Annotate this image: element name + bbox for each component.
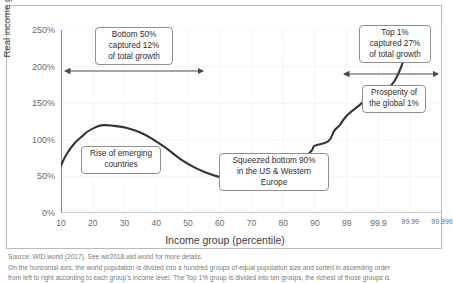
chart-frame: Real income growth per adult (%) 0%50%10… [6, 5, 442, 249]
y-tick-0: 0% [11, 208, 55, 218]
footnote-note-line-1: On the horizontal axis, the world popula… [8, 263, 448, 274]
x-tick-20: 20 [88, 218, 97, 228]
y-tick-250: 250% [11, 25, 55, 35]
x-tick-90: 90 [310, 218, 319, 228]
x-tick-80: 80 [279, 218, 288, 228]
squeezed-bottom-90-callout: Squeezed bottom 90% in the US & Western … [219, 153, 329, 191]
footnote-source: Source: WID.world (2017). See wir2018.wi… [8, 252, 448, 263]
x-tick-30: 30 [120, 218, 129, 228]
x-tick-99-9: 99.9 [370, 218, 387, 228]
x-tick-99-999: 99.999 [431, 218, 452, 225]
footnotes: Source: WID.world (2017). See wir2018.wi… [8, 252, 448, 283]
x-tick-40: 40 [152, 218, 161, 228]
x-axis-title: Income group (percentile) [7, 234, 443, 246]
x-tick-10: 10 [56, 218, 65, 228]
y-tick-150: 150% [11, 98, 55, 108]
x-tick-70: 70 [247, 218, 256, 228]
top-1-callout: Top 1% captured 27% of total growth [359, 25, 431, 63]
footnote-note-line-2: from left to right according to each gro… [8, 273, 448, 283]
x-tick-60: 60 [215, 218, 224, 228]
x-tick-99: 99 [342, 218, 351, 228]
y-tick-50: 50% [11, 171, 55, 181]
bottom-50-callout: Bottom 50% captured 12% of total growth [95, 27, 173, 65]
x-tick-50: 50 [183, 218, 192, 228]
y-tick-100: 100% [11, 135, 55, 145]
x-tick-99-99: 99.99 [401, 218, 419, 225]
rise-emerging-callout: Rise of emerging countries [81, 146, 161, 174]
y-tick-200: 200% [11, 62, 55, 72]
prosperity-global-1-callout: Prosperity of the global 1% [362, 85, 426, 113]
